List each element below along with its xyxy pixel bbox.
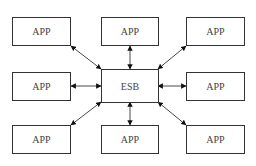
hub-label: ESB bbox=[121, 81, 139, 92]
node-label: APP bbox=[206, 26, 224, 37]
node-label: APP bbox=[206, 134, 224, 145]
edge-bottom-right bbox=[158, 102, 186, 125]
app-node-top-right: APP bbox=[186, 17, 245, 46]
node-label: APP bbox=[121, 26, 139, 37]
node-label: APP bbox=[32, 134, 50, 145]
app-node-middle-right: APP bbox=[186, 72, 245, 101]
esb-hub-node: ESB bbox=[101, 69, 159, 103]
esb-hub-diagram: APP APP APP APP ESB APP APP APP APP bbox=[0, 0, 256, 166]
edge-top-left bbox=[71, 46, 101, 69]
app-node-bottom-right: APP bbox=[186, 125, 245, 154]
node-label: APP bbox=[32, 26, 50, 37]
node-label: APP bbox=[206, 81, 224, 92]
app-node-top-left: APP bbox=[12, 17, 71, 46]
edge-top-right bbox=[158, 46, 186, 69]
app-node-middle-left: APP bbox=[12, 72, 71, 101]
edge-bottom-left bbox=[71, 102, 101, 125]
node-label: APP bbox=[32, 81, 50, 92]
app-node-bottom-center: APP bbox=[101, 125, 159, 154]
app-node-bottom-left: APP bbox=[12, 125, 71, 154]
node-label: APP bbox=[121, 134, 139, 145]
app-node-top-center: APP bbox=[101, 17, 159, 46]
